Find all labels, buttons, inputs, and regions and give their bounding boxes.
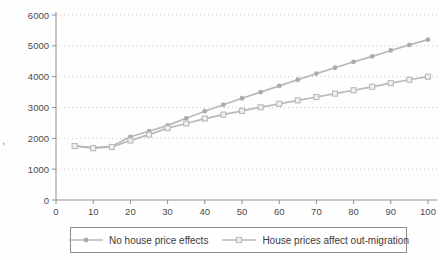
x-tick-label: 90: [386, 206, 397, 217]
dot-marker-icon: [221, 102, 226, 107]
line-square-marker-icon: [221, 235, 257, 245]
y-tick-label: 3000: [28, 102, 49, 113]
legend-label-house-prices-affect-out-migration: House prices affect out-migration: [262, 235, 409, 246]
square-marker-icon: [109, 144, 114, 149]
y-tick-label: 0: [44, 195, 49, 206]
dot-marker-icon: [351, 59, 356, 64]
square-marker-icon: [165, 126, 170, 131]
x-tick-label: 100: [420, 206, 436, 217]
dot-marker-icon: [333, 65, 338, 70]
square-marker-icon: [295, 98, 300, 103]
square-marker-icon: [388, 81, 393, 86]
square-marker-icon: [333, 91, 338, 96]
square-marker-icon: [370, 84, 375, 89]
dot-marker-icon: [240, 96, 245, 101]
legend: No house price effects House prices affe…: [70, 227, 407, 253]
series-no-house-price-effects: [72, 37, 430, 150]
legend-entry-no-house-price-effects: No house price effects: [68, 235, 208, 246]
y-tick-label: 4000: [28, 71, 49, 82]
chart-canvas: 0100020003000400050006000010203040506070…: [0, 0, 440, 228]
square-marker-icon: [128, 138, 133, 143]
y-tick-label: 6000: [28, 10, 49, 21]
square-marker-icon: [240, 108, 245, 113]
dot-marker-icon: [388, 48, 393, 53]
dot-marker-icon: [202, 109, 207, 114]
square-marker-icon: [202, 116, 207, 121]
x-tick-label: 40: [200, 206, 211, 217]
y-tick-label: 2000: [28, 133, 49, 144]
dot-marker-icon: [277, 84, 282, 89]
legend-label-no-house-price-effects: No house price effects: [109, 235, 208, 246]
dot-marker-icon: [407, 43, 412, 48]
x-tick-label: 60: [274, 206, 285, 217]
x-tick-label: 50: [237, 206, 248, 217]
y-tick-label: 1000: [28, 164, 49, 175]
x-tick-label: 20: [125, 206, 136, 217]
x-tick-label: 10: [88, 206, 99, 217]
dot-marker-icon: [426, 37, 431, 42]
square-marker-icon: [184, 121, 189, 126]
dot-marker-icon: [314, 71, 319, 76]
square-marker-icon: [426, 74, 431, 79]
x-tick-label: 30: [162, 206, 173, 217]
legend-entry-house-prices-affect-out-migration: House prices affect out-migration: [221, 235, 409, 246]
square-marker-icon: [407, 77, 412, 82]
scan-artifact: ,: [2, 134, 5, 146]
dot-marker-icon: [258, 90, 263, 95]
y-tick-label: 5000: [28, 40, 49, 51]
square-marker-icon: [258, 105, 263, 110]
line-dot-marker-icon: [68, 235, 104, 245]
square-marker-icon: [91, 146, 96, 151]
dot-marker-icon: [184, 116, 189, 121]
square-marker-icon: [72, 144, 77, 149]
square-marker-icon: [351, 88, 356, 93]
square-marker-icon: [147, 132, 152, 137]
square-marker-icon: [277, 101, 282, 106]
x-tick-label: 70: [311, 206, 322, 217]
x-tick-label: 80: [348, 206, 359, 217]
square-marker-icon: [314, 95, 319, 100]
series-line: [75, 40, 428, 148]
x-tick-label: 0: [53, 206, 58, 217]
dot-marker-icon: [370, 54, 375, 59]
chart-figure: 0100020003000400050006000010203040506070…: [0, 0, 440, 260]
square-marker-icon: [221, 112, 226, 117]
dot-marker-icon: [295, 77, 300, 82]
